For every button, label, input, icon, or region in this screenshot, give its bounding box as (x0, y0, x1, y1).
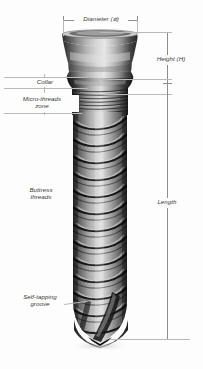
micro-threads-tick-top (44, 88, 45, 93)
length-label: Length (150, 198, 184, 205)
length-tick-top (163, 83, 172, 84)
length-dimension-line (167, 83, 168, 340)
height-extension-bottom (100, 79, 172, 80)
length-extension-bottom (110, 339, 190, 340)
height-extension-top (100, 32, 172, 33)
collar-leader-bottom (4, 88, 88, 89)
micro-threads-zone (72, 86, 128, 115)
height-label: Height (H) (148, 55, 194, 62)
implant-diagram-figure: Diameter (⌀) Height (H) Length Collar Mi… (0, 0, 203, 369)
self-tapping-groove-label: Self-tapping groove (8, 293, 72, 308)
diameter-label: Diameter (⌀) (74, 15, 128, 22)
buttress-threads-label: Buttress threads (12, 186, 70, 201)
collar-label: Collar (26, 78, 64, 85)
diameter-extension-right (137, 20, 138, 36)
micro-threads-zone-label: Micro-threads zone (5, 95, 79, 110)
diameter-extension-left (63, 20, 64, 36)
implant-head (62, 30, 138, 79)
implant-threaded-body (70, 112, 130, 348)
height-extension-collar (100, 94, 172, 95)
micro-threads-leader-bottom (4, 113, 82, 114)
